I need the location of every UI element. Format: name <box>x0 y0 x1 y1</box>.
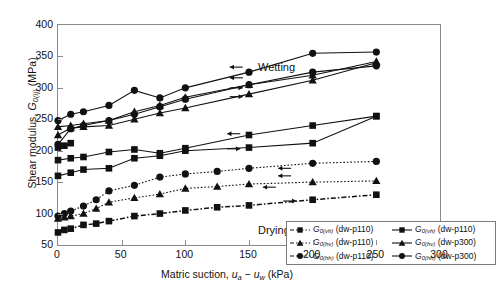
direction-arrow-left <box>230 65 243 70</box>
data-marker-circle <box>373 158 380 165</box>
data-marker-square <box>67 155 74 162</box>
data-marker-triangle <box>54 131 62 138</box>
y-tick-mark <box>58 182 63 183</box>
data-marker-square <box>67 140 74 147</box>
legend-label: G0(vh) (dw-p110) <box>313 225 373 234</box>
data-marker-square <box>61 142 68 149</box>
legend-subscript: 0(vh) <box>320 228 334 234</box>
legend-symbol: G <box>415 224 422 234</box>
data-marker-square <box>106 149 113 156</box>
data-marker-circle <box>182 170 189 177</box>
data-marker-circle <box>373 48 380 55</box>
data-marker-circle <box>54 117 61 124</box>
y-tick-mark <box>58 119 63 120</box>
legend-item[interactable]: G0(vh) (dw-p110) <box>391 223 493 236</box>
legend-key-triangle-icon <box>391 238 413 248</box>
data-marker-circle <box>214 168 221 175</box>
y-tick-label: 150 <box>19 175 53 187</box>
arrow-head <box>236 146 240 151</box>
x-tick-mark <box>376 240 377 245</box>
x-axis-title-pre: Matric suction, <box>161 268 232 280</box>
arrow-head <box>278 166 282 171</box>
series-line <box>58 61 376 126</box>
arrow-head <box>227 131 231 136</box>
series-line <box>58 63 376 135</box>
legend-condition: (dw-p110) <box>435 224 475 234</box>
y-axis-tick-labels: 50100150200250300350400 <box>17 24 53 246</box>
x-tick-mark <box>185 240 186 245</box>
legend-symbol: G <box>313 224 320 234</box>
x-tick-label: 0 <box>37 248 77 260</box>
data-marker-circle <box>105 117 112 124</box>
arrow-head <box>230 65 234 70</box>
arrow-head <box>239 94 243 99</box>
data-marker-square <box>80 154 87 161</box>
direction-arrow-left <box>227 131 240 136</box>
data-marker-square <box>297 227 302 232</box>
data-marker-square <box>373 113 380 120</box>
data-marker-square <box>106 165 113 172</box>
chart-canvas <box>58 25 440 245</box>
legend-item[interactable]: G0(vh) (dw-p110) <box>289 223 391 236</box>
data-marker-triangle <box>213 182 221 189</box>
x-tick-label: 150 <box>228 248 268 260</box>
data-marker-circle <box>245 165 252 172</box>
data-marker-square <box>61 227 68 234</box>
series-1 <box>54 177 381 222</box>
x-tick-label: 200 <box>292 248 332 260</box>
legend-condition: (dw-p300) <box>435 237 476 247</box>
data-marker-circle <box>131 111 138 118</box>
data-marker-triangle <box>79 209 87 216</box>
y-tick-label: 300 <box>19 81 53 93</box>
y-tick-label: 100 <box>19 207 53 219</box>
y-tick-mark <box>58 88 63 89</box>
legend-subscript: 0(hv) <box>422 242 436 248</box>
data-marker-circle <box>93 196 100 203</box>
arrow-head <box>292 199 296 204</box>
data-marker-square <box>373 191 380 198</box>
data-marker-circle <box>131 182 138 189</box>
x-tick-mark <box>122 240 123 245</box>
x-tick-label: 50 <box>101 248 141 260</box>
legend-subscript: 0(hv) <box>320 242 334 248</box>
direction-arrow-left <box>278 173 291 178</box>
direction-arrow-right <box>227 146 240 151</box>
data-marker-square <box>131 146 138 153</box>
data-marker-square <box>182 145 189 152</box>
x-tick-mark <box>313 240 314 245</box>
data-marker-square <box>67 169 74 176</box>
legend-symbol: G <box>313 237 320 247</box>
x-tick-label: 250 <box>355 248 395 260</box>
data-marker-circle <box>131 87 138 94</box>
x-tick-label: 100 <box>164 248 204 260</box>
y-tick-label: 250 <box>19 112 53 124</box>
data-marker-square <box>309 196 316 203</box>
x-axis-tick-labels: 050100150200250300 <box>57 248 441 262</box>
data-marker-circle <box>245 81 252 88</box>
direction-arrow-left <box>278 166 291 171</box>
data-marker-circle <box>67 207 74 214</box>
x-tick-label: 300 <box>419 248 459 260</box>
data-marker-square <box>55 173 62 180</box>
y-tick-label: 400 <box>19 18 53 30</box>
x-axis-minus: − <box>242 268 254 280</box>
data-marker-square <box>55 229 62 236</box>
data-marker-square <box>246 202 253 209</box>
data-marker-triangle <box>245 180 253 187</box>
y-tick-label: 350 <box>19 49 53 61</box>
data-marker-square <box>157 210 164 217</box>
data-marker-square <box>106 218 113 225</box>
data-marker-circle <box>373 62 380 69</box>
legend-subscript: 0(vh) <box>422 228 436 234</box>
data-marker-circle <box>67 125 74 132</box>
legend-label: G0(hv) (dw-p110) <box>313 238 373 247</box>
legend-key-square-icon <box>289 225 311 235</box>
data-marker-square <box>55 157 62 164</box>
data-marker-circle <box>80 202 87 209</box>
data-marker-triangle <box>92 204 100 211</box>
series-9 <box>54 48 380 124</box>
data-marker-square <box>131 213 138 220</box>
data-marker-circle <box>156 94 163 101</box>
y-tick-label: 200 <box>19 144 53 156</box>
